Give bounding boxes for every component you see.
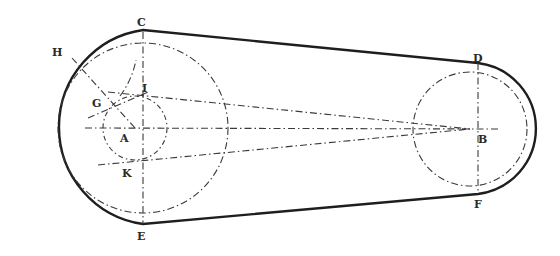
- label-d: D: [473, 52, 483, 65]
- center-line-ab: [85, 128, 500, 129]
- belt-pulley-diagram: C H I G A K E D B F: [0, 0, 560, 256]
- belt-outline: [59, 30, 536, 224]
- label-h: H: [52, 46, 62, 59]
- label-g: G: [92, 97, 101, 110]
- label-e: E: [137, 230, 145, 243]
- line-k-b: [98, 129, 470, 165]
- label-i: I: [142, 82, 147, 95]
- arc-g-c: [120, 60, 136, 96]
- label-f: F: [474, 198, 482, 211]
- label-b: B: [478, 133, 487, 146]
- label-c: C: [137, 16, 146, 29]
- line-i-b: [108, 92, 470, 129]
- label-k: K: [122, 167, 132, 180]
- line-h-a: [72, 58, 135, 128]
- label-a: A: [119, 132, 129, 145]
